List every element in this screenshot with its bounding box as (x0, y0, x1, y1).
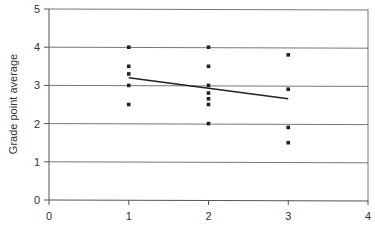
x-tick-label: 4 (365, 210, 371, 222)
y-axis-title: Grade point average (7, 54, 19, 154)
x-tick-label: 2 (205, 210, 211, 222)
y-tick-label: 3 (34, 79, 40, 91)
trend-line (129, 78, 289, 99)
data-point-marker (207, 65, 211, 69)
scatter-chart: 012345 01234 Grade point average (0, 0, 375, 243)
x-axis-ticks: 01234 (46, 200, 371, 222)
data-point-marker (286, 126, 290, 130)
x-tick-label: 1 (126, 210, 132, 222)
data-point-marker (127, 72, 131, 76)
data-point-marker (127, 45, 131, 49)
data-point-marker (286, 87, 290, 91)
gridline (49, 9, 368, 10)
data-point-marker (286, 53, 290, 57)
data-points (127, 45, 290, 144)
y-tick-label: 5 (34, 3, 40, 15)
data-point-marker (207, 97, 211, 101)
y-tick-label: 0 (34, 194, 40, 206)
data-point-marker (286, 141, 290, 145)
y-tick-label: 1 (34, 156, 40, 168)
data-point-marker (207, 91, 211, 95)
data-point-marker (207, 45, 211, 49)
gridline (49, 162, 368, 163)
data-point-marker (127, 103, 131, 107)
y-tick-label: 2 (34, 118, 40, 130)
data-point-marker (207, 84, 211, 88)
trend-line-path (129, 78, 289, 99)
y-axis-ticks: 012345 (34, 3, 49, 206)
x-tick-label: 3 (285, 210, 291, 222)
y-tick-label: 4 (34, 41, 40, 53)
data-point-marker (127, 84, 131, 88)
data-point-marker (207, 122, 211, 126)
data-point-marker (207, 103, 211, 107)
data-point-marker (127, 65, 131, 69)
x-tick-label: 0 (46, 210, 52, 222)
